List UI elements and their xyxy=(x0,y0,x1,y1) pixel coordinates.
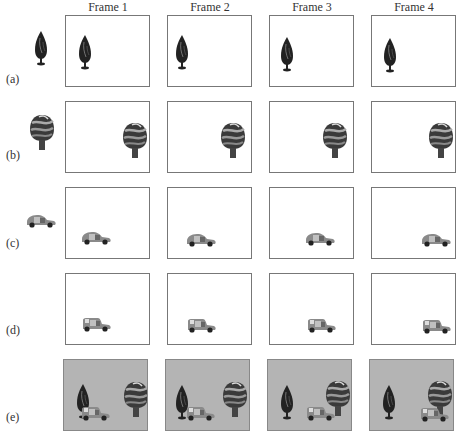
frame-e-2 xyxy=(165,359,250,431)
car-icon xyxy=(304,230,336,246)
frame-d-1 xyxy=(65,273,150,345)
tall-tree-icon xyxy=(280,384,294,420)
round-tree-icon xyxy=(221,380,249,418)
row-label-c: (c) xyxy=(6,236,19,251)
frame-a-4 xyxy=(371,15,456,87)
frame-b-4 xyxy=(371,101,456,173)
frame-b-1 xyxy=(65,101,150,173)
round-tree-icon xyxy=(121,121,149,159)
frame-e-1 xyxy=(63,359,148,431)
tall-tree-icon xyxy=(78,34,92,70)
car-icon xyxy=(185,231,217,247)
frame-a-2 xyxy=(167,15,252,87)
tall-tree-icon xyxy=(382,384,396,420)
van-icon xyxy=(80,316,112,332)
frame-e-4 xyxy=(369,359,454,431)
frame-c-1 xyxy=(65,187,150,259)
van-icon xyxy=(304,405,336,421)
van-icon xyxy=(185,317,217,333)
frame-d-4 xyxy=(371,273,456,345)
row-label-a: (a) xyxy=(6,72,19,87)
van-icon xyxy=(184,405,216,421)
tall-tree-icon xyxy=(280,36,294,72)
car-icon xyxy=(80,229,112,245)
column-header-frame-1: Frame 1 xyxy=(65,0,151,15)
round-tree-icon xyxy=(427,121,455,159)
car-source-icon xyxy=(25,212,57,228)
frame-b-2 xyxy=(167,101,252,173)
column-header-frame-2: Frame 2 xyxy=(167,0,253,15)
car-icon xyxy=(420,231,452,247)
van-icon xyxy=(418,406,450,422)
tall-tree-source-icon xyxy=(34,30,48,66)
frame-d-2 xyxy=(167,273,252,345)
round-tree-icon xyxy=(219,121,247,159)
round-tree-icon xyxy=(321,121,349,159)
column-header-frame-3: Frame 3 xyxy=(269,0,355,15)
column-header-frame-4: Frame 4 xyxy=(371,0,457,15)
tall-tree-icon xyxy=(175,34,189,70)
row-label-b: (b) xyxy=(6,148,20,163)
frame-c-2 xyxy=(167,187,252,259)
frame-b-3 xyxy=(269,101,354,173)
van-icon xyxy=(305,317,337,333)
round-tree-icon xyxy=(122,380,148,418)
frame-c-3 xyxy=(269,187,354,259)
frame-e-3 xyxy=(267,359,352,431)
tall-tree-icon xyxy=(383,37,397,73)
frame-a-3 xyxy=(269,15,354,87)
van-icon xyxy=(79,405,111,421)
row-label-d: (d) xyxy=(6,323,20,338)
frame-d-3 xyxy=(269,273,354,345)
frame-a-1 xyxy=(65,15,150,87)
row-label-e: (e) xyxy=(6,410,19,425)
round-tree-source-icon xyxy=(28,113,56,151)
frame-c-4 xyxy=(371,187,456,259)
van-icon xyxy=(420,318,452,334)
